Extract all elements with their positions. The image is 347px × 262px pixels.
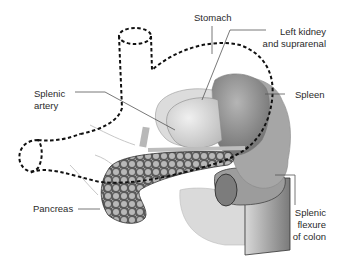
- label-splenic-flexure-line3: of colon: [270, 231, 326, 242]
- label-spleen: Spleen: [295, 89, 325, 100]
- splenic-artery-stub: [139, 127, 149, 148]
- label-left-kidney-line1: Left kidney: [257, 26, 326, 37]
- label-splenic-artery-line1: Splenic: [34, 88, 65, 99]
- label-splenic-artery-line2: artery: [34, 100, 58, 111]
- label-splenic-flexure-line1: Splenic: [270, 207, 326, 218]
- left-kidney: [155, 89, 222, 148]
- label-left-kidney-line2: and suprarenal: [250, 38, 326, 49]
- label-splenic-flexure-line2: flexure: [270, 219, 326, 230]
- label-stomach: Stomach: [194, 12, 232, 23]
- anatomy-diagram: Stomach Left kidney and suprarenal Splen…: [0, 0, 347, 262]
- label-pancreas: Pancreas: [33, 203, 73, 214]
- splenic-artery: [148, 148, 245, 150]
